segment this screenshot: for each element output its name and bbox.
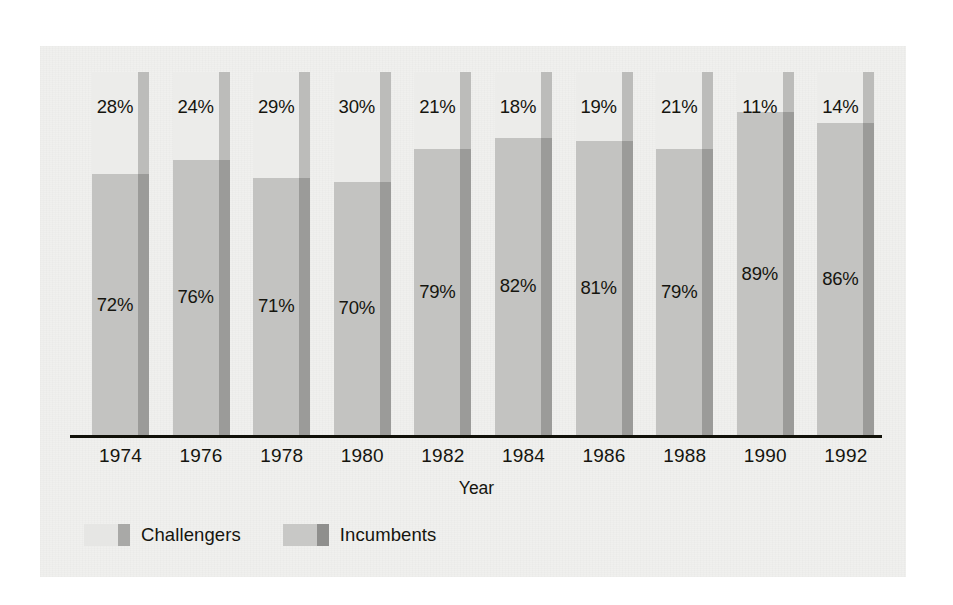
bar-side-face [541, 72, 552, 437]
x-tick-label-1976: 1976 [161, 445, 241, 467]
legend-item-incumbents[interactable]: Incumbents [283, 524, 437, 546]
bar-value-label-challengers: 21% [414, 96, 460, 118]
bar-value-label-incumbents: 86% [817, 268, 863, 290]
x-tick-label-1992: 1992 [806, 445, 886, 467]
legend-item-challengers[interactable]: Challengers [84, 524, 241, 546]
x-tick-label-1990: 1990 [725, 445, 805, 467]
bar-side-face [380, 72, 391, 437]
bar-segment-challengers[interactable] [334, 72, 380, 182]
bar-value-label-challengers: 29% [253, 96, 299, 118]
bar-side-face [299, 72, 310, 437]
bar-face [737, 72, 783, 437]
bar-value-label-challengers: 24% [173, 96, 219, 118]
bar-face [495, 72, 541, 437]
x-tick-label-1980: 1980 [322, 445, 402, 467]
chart-page: 28%72%24%76%29%71%30%70%21%79%18%82%19%8… [0, 0, 953, 605]
legend-label-incumbents: Incumbents [340, 524, 437, 546]
bar-value-label-incumbents: 82% [495, 275, 541, 297]
bar-value-label-challengers: 11% [737, 96, 783, 118]
x-tick-label-1988: 1988 [645, 445, 725, 467]
x-tick-label-1982: 1982 [403, 445, 483, 467]
bar-face [253, 72, 299, 437]
bar-value-label-incumbents: 76% [173, 286, 219, 308]
bar-face [173, 72, 219, 437]
x-tick-label-1974: 1974 [81, 445, 161, 467]
bar-segment-challengers[interactable] [253, 72, 299, 178]
legend-swatch-challengers-icon [84, 524, 130, 546]
x-tick-label-1978: 1978 [242, 445, 322, 467]
bar-value-label-incumbents: 71% [253, 295, 299, 317]
x-tick-label-1984: 1984 [484, 445, 564, 467]
bar-side-face [219, 72, 230, 437]
bar-face [576, 72, 622, 437]
legend-label-challengers: Challengers [141, 524, 241, 546]
bar-value-label-challengers: 18% [495, 96, 541, 118]
bar-face [817, 72, 863, 437]
bar-face [92, 72, 138, 437]
bar-value-label-challengers: 28% [92, 96, 138, 118]
bar-value-label-incumbents: 79% [656, 281, 702, 303]
bar-segment-challengers[interactable] [92, 72, 138, 174]
bar-side-face [702, 72, 713, 437]
bar-value-label-incumbents: 79% [414, 281, 460, 303]
bar-value-label-challengers: 21% [656, 96, 702, 118]
legend-swatch-incumbents-icon [283, 524, 329, 546]
plot-area: 28%72%24%76%29%71%30%70%21%79%18%82%19%8… [0, 0, 953, 605]
bar-face [656, 72, 702, 437]
bar-value-label-challengers: 14% [817, 96, 863, 118]
x-axis-line [70, 435, 882, 438]
bar-value-label-incumbents: 81% [576, 277, 622, 299]
bar-value-label-incumbents: 72% [92, 294, 138, 316]
x-tick-label-1986: 1986 [564, 445, 644, 467]
x-axis-title: Year [0, 478, 953, 499]
chart-legend: Challengers Incumbents [84, 524, 436, 546]
bar-value-label-challengers: 19% [576, 96, 622, 118]
bar-value-label-incumbents: 70% [334, 297, 380, 319]
bar-side-face [460, 72, 471, 437]
bar-side-face [138, 72, 149, 437]
bar-side-face [783, 72, 794, 437]
bar-side-face [622, 72, 633, 437]
bar-value-label-incumbents: 89% [737, 263, 783, 285]
bar-value-label-challengers: 30% [334, 96, 380, 118]
bar-side-face [863, 72, 874, 437]
bar-face [414, 72, 460, 437]
bar-face [334, 72, 380, 437]
